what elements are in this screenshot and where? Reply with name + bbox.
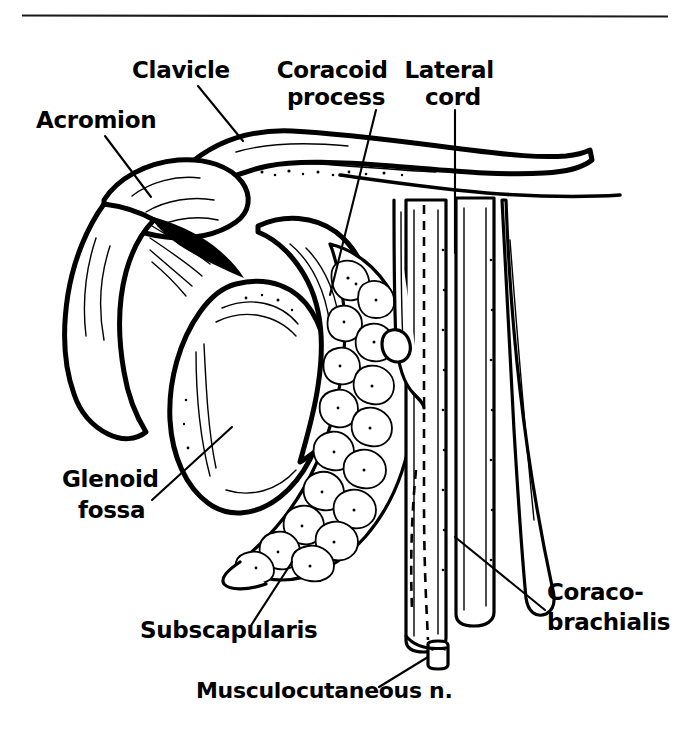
label-coraco-brachialis-line-2: brachialis <box>547 609 670 635</box>
outer-muscle-strip <box>502 200 554 615</box>
upper-fascia-margin <box>340 175 620 196</box>
label-musculocutaneous-n: Musculocutaneous n. <box>196 678 453 703</box>
label-subscapularis-line-1: Subscapularis <box>140 617 318 643</box>
label-coracoid-process-line-1: Coracoid <box>277 57 388 83</box>
top-rule <box>22 16 668 17</box>
label-lateral-cord-line-1: Lateral <box>404 57 493 83</box>
label-acromion: Acromion <box>36 107 156 133</box>
label-subscapularis: Subscapularis <box>140 617 318 643</box>
label-musculocutaneous-n-line-1: Musculocutaneous n. <box>196 678 453 703</box>
lateral-cord-terminal-bulb <box>382 330 410 362</box>
clavicle-stipple <box>261 169 404 176</box>
label-clavicle-line-1: Clavicle <box>132 57 230 83</box>
musculocutaneous-nerve-stump <box>428 641 448 669</box>
anatomy-illustration <box>65 131 620 669</box>
scapular-spine-lateral-border <box>65 204 154 439</box>
label-acromion-line-1: Acromion <box>36 107 156 133</box>
label-glenoid-fossa-line-1: Glenoid <box>62 466 159 492</box>
figure-page: Acromion Clavicle Coracoid process Later… <box>0 0 689 739</box>
label-glenoid-fossa-line-2: fossa <box>78 497 145 523</box>
label-coracoid-process-line-2: process <box>287 84 385 110</box>
label-lateral-cord: Lateral cord <box>404 57 501 110</box>
biceps-lateral-strip <box>456 198 494 626</box>
glenoid-fossa-surface <box>170 281 329 513</box>
label-coracoid-process: Coracoid process <box>277 57 396 110</box>
anatomy-figure: Acromion Clavicle Coracoid process Later… <box>0 0 689 739</box>
leader-clavicle <box>198 86 243 141</box>
label-lateral-cord-line-2: cord <box>425 84 481 110</box>
label-glenoid-fossa: Glenoid fossa <box>62 466 167 523</box>
label-coraco-brachialis: Coraco- brachialis <box>547 579 670 635</box>
label-clavicle: Clavicle <box>132 57 230 83</box>
label-coraco-brachialis-line-1: Coraco- <box>547 579 643 605</box>
